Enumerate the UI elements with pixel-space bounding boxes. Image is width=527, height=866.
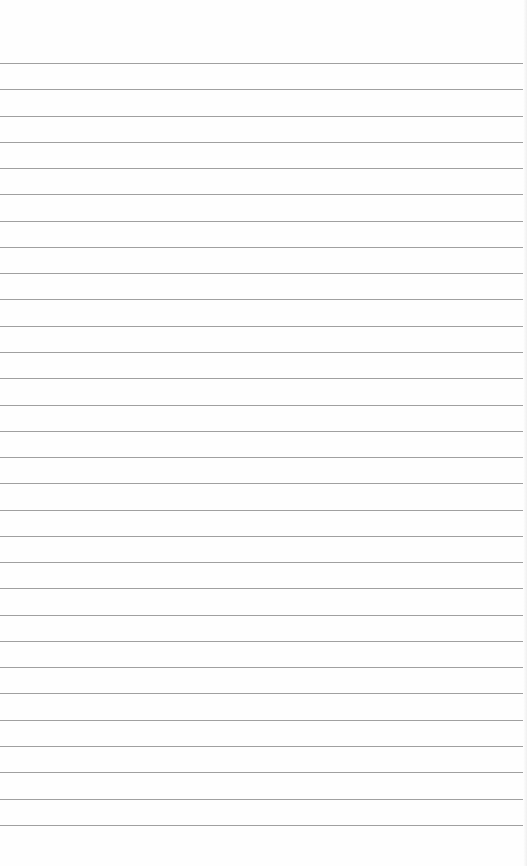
ruled-line [0, 194, 523, 195]
ruled-line [0, 457, 523, 458]
lined-paper [0, 0, 527, 866]
ruled-line [0, 536, 523, 537]
ruled-line [0, 693, 523, 694]
ruled-line [0, 746, 523, 747]
ruled-line [0, 825, 523, 826]
ruled-line [0, 116, 523, 117]
ruled-line [0, 588, 523, 589]
ruled-line [0, 221, 523, 222]
ruled-line [0, 562, 523, 563]
ruled-line [0, 63, 523, 64]
ruled-line [0, 483, 523, 484]
ruled-line [0, 326, 523, 327]
ruled-line [0, 378, 523, 379]
ruled-line [0, 352, 523, 353]
ruled-line [0, 168, 523, 169]
ruled-line [0, 89, 523, 90]
paper-edge [523, 0, 527, 866]
ruled-line [0, 615, 523, 616]
ruled-line [0, 247, 523, 248]
ruled-line [0, 510, 523, 511]
ruled-line [0, 799, 523, 800]
ruled-line [0, 142, 523, 143]
ruled-line [0, 720, 523, 721]
ruled-line [0, 299, 523, 300]
ruled-line [0, 431, 523, 432]
ruled-line [0, 273, 523, 274]
ruled-line [0, 772, 523, 773]
ruled-line [0, 641, 523, 642]
ruled-line [0, 667, 523, 668]
ruled-line [0, 405, 523, 406]
